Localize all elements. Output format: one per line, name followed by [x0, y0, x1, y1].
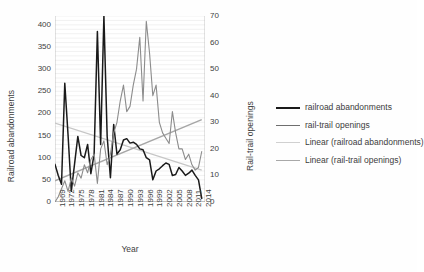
y-axis-right-tick: 10 [205, 171, 250, 179]
x-axis-tick: 1975 [78, 189, 86, 207]
y-axis-left-tick: 150 [11, 132, 55, 140]
y-axis-left-tick: 400 [11, 21, 55, 29]
legend-label: rail-trail openings [305, 121, 370, 130]
y-axis-left-title: Railroad abandonments [6, 61, 16, 211]
x-axis-tick: 2014 [205, 189, 213, 207]
y-axis-left-tick: 350 [11, 43, 55, 51]
x-axis-tick: 1999 [156, 189, 164, 207]
x-axis-tick: 1978 [88, 189, 96, 207]
y-axis-right-tick: 50 [205, 65, 250, 73]
y-axis-left-tick: 0 [11, 198, 55, 206]
legend-item[interactable]: Linear (rail-trail openings) [276, 156, 424, 165]
y-axis-right-title: Rail-trail openings [245, 61, 255, 211]
plot-svg [55, 16, 205, 202]
legend-item[interactable]: rail-trail openings [276, 121, 424, 130]
legend-item[interactable]: Linear (railroad abandonments) [276, 138, 424, 147]
plot-area: 0501001502002503003504000102030405060701… [55, 16, 205, 202]
x-axis-tick: 2002 [166, 189, 174, 207]
legend-swatch-line-icon [276, 142, 300, 143]
y-axis-right-tick: 30 [205, 118, 250, 126]
x-axis-tick: 2008 [186, 189, 194, 207]
y-axis-right-tick: 70 [205, 12, 250, 20]
x-axis-tick: 1981 [98, 189, 106, 207]
x-axis-title: Year [55, 244, 205, 254]
trendline-1 [55, 120, 202, 181]
x-axis-tick: 2011 [195, 190, 203, 207]
x-axis-tick: 1972 [68, 189, 76, 207]
x-axis-tick: 1996 [147, 189, 155, 207]
y-axis-left-tick: 50 [11, 176, 55, 184]
x-axis-tick: 1969 [59, 189, 67, 207]
y-axis-left-tick: 100 [11, 154, 55, 162]
legend-label: Linear (railroad abandonments) [305, 138, 424, 147]
legend-label: Linear (rail-trail openings) [305, 156, 401, 165]
y-axis-left-tick: 250 [11, 87, 55, 95]
legend-swatch-line-icon [276, 107, 300, 109]
legend-swatch-line-icon [276, 160, 300, 161]
legend-label: railroad abandonments [305, 103, 392, 112]
y-axis-right-tick: 60 [205, 39, 250, 47]
y-axis-right-tick: 20 [205, 145, 250, 153]
x-axis-tick: 1990 [127, 189, 135, 207]
y-axis-left-tick: 300 [11, 65, 55, 73]
legend-item[interactable]: railroad abandonments [276, 103, 424, 112]
x-axis-tick: 2005 [176, 189, 184, 207]
series-line-1 [55, 21, 202, 202]
x-axis-tick: 1984 [107, 189, 115, 207]
y-axis-right-tick: 40 [205, 92, 250, 100]
x-axis-tick: 1987 [117, 189, 125, 207]
y-axis-left-tick: 200 [11, 109, 55, 117]
x-axis-tick: 1993 [137, 189, 145, 207]
chart-legend: railroad abandonmentsrail-trail openings… [276, 103, 424, 165]
legend-swatch-line-icon [276, 125, 300, 126]
